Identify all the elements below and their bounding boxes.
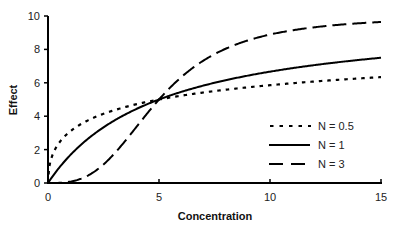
x-tick-label: 15 <box>375 191 387 203</box>
x-tick-label: 0 <box>45 191 51 203</box>
legend-item-n-1: N = 1 <box>269 139 345 151</box>
legend-item-n-3: N = 3 <box>269 158 345 170</box>
legend-label: N = 3 <box>318 158 345 170</box>
axes: 0246810 051015 <box>28 10 387 203</box>
legend-item-n-0-5: N = 0.5 <box>270 120 354 132</box>
dose-response-chart: 0246810 051015 Concentration Effect N = … <box>0 0 393 231</box>
y-tick-label: 0 <box>34 177 40 189</box>
y-tick-label: 6 <box>34 77 40 89</box>
x-tick-label: 10 <box>264 191 276 203</box>
x-axis-title: Concentration <box>178 210 253 222</box>
y-tick-label: 4 <box>34 110 40 122</box>
legend: N = 0.5 N = 1 N = 3 <box>269 120 354 170</box>
legend-label: N = 0.5 <box>318 120 354 132</box>
x-tick-label: 5 <box>156 191 162 203</box>
y-tick-label: 2 <box>34 144 40 156</box>
y-tick-label: 8 <box>34 43 40 55</box>
y-axis-ticks: 0246810 <box>28 10 48 189</box>
y-axis-title: Effect <box>7 84 19 115</box>
legend-label: N = 1 <box>318 139 345 151</box>
y-tick-label: 10 <box>28 10 40 22</box>
